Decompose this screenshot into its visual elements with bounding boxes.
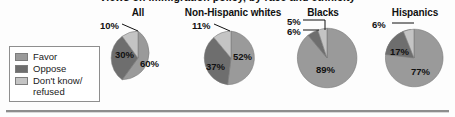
pie-label-all-oppose: 30% (115, 49, 134, 60)
panel-title-blacks: Blacks (296, 7, 350, 18)
pie-label-hispanics-oppose: 17% (390, 46, 409, 57)
legend-swatch-dont-know (15, 77, 28, 85)
chart-legend: Favor Oppose Don't know/ refused (9, 46, 100, 102)
pie-chart-figure: Views on immigration policy, by race and… (0, 0, 455, 117)
legend-label-favor-line1: Favor (33, 51, 57, 62)
pie-chart-all: 60% 30% (110, 30, 166, 86)
legend-swatch-favor (15, 53, 28, 61)
panel-title-non-hispanic-whites: Non-Hispanic whites (175, 7, 291, 18)
pie-label-all-favor: 60% (140, 58, 159, 69)
pie-chart-non-hispanic-whites: 52% 37% (203, 30, 259, 86)
panel-title-hispanics: Hispanics (380, 7, 450, 18)
pie-label-nhw-dont-know: 11% (192, 20, 211, 31)
legend-label-dont-know-line2: refused (33, 86, 82, 97)
panel-title-all: All (110, 7, 166, 18)
figure-title-clipped: Views on immigration policy, by race and… (0, 0, 455, 3)
legend-item-oppose: Oppose (15, 63, 99, 74)
legend-item-favor: Favor (15, 51, 99, 62)
pie-label-blacks-favor: 89% (316, 64, 335, 75)
pie-label-all-dont-know: 10% (100, 20, 119, 31)
legend-label-favor: Favor (33, 51, 57, 62)
pie-label-nhw-oppose: 37% (206, 61, 225, 72)
legend-label-oppose: Oppose (33, 63, 66, 74)
pie-label-hispanics-dont-know: 6% (372, 19, 386, 30)
legend-swatch-oppose (15, 65, 28, 73)
pie-svg-hispanics (384, 28, 444, 88)
pie-label-hispanics-favor: 77% (411, 66, 430, 77)
leader-line-all-dont-know (122, 22, 146, 34)
legend-item-dont-know: Don't know/ refused (15, 75, 99, 97)
leader-line-hispanics-dont-know (392, 21, 420, 31)
leader-line-nhw-dont-know (214, 22, 238, 34)
pie-label-blacks-oppose: 6% (287, 26, 301, 37)
legend-label-dont-know: Don't know/ refused (33, 75, 82, 97)
pie-svg-blacks (296, 27, 358, 89)
legend-label-oppose-line1: Oppose (33, 63, 66, 74)
pie-chart-blacks: 89% (296, 27, 358, 89)
legend-label-dont-know-line1: Don't know/ (33, 75, 82, 86)
leader-line-blacks-labels (303, 18, 335, 36)
bottom-divider (6, 110, 449, 112)
pie-label-nhw-favor: 52% (233, 51, 252, 62)
pie-chart-hispanics: 77% 17% (384, 28, 444, 88)
